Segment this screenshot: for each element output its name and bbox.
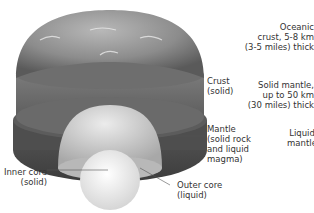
inner-core (80, 150, 140, 210)
mantle-label: Mantle (solid rock and liquid magma) (207, 124, 251, 164)
inner-core-label: Inner core (solid) (0, 167, 47, 187)
liquid-mantle-label: Liquid mantle (282, 128, 314, 148)
outer-core-label: Outer core (liquid) (177, 180, 222, 200)
oceanic-crust-label: Oceanic crust, 5-8 km (3-5 miles) thick (230, 22, 314, 52)
earth-layers-diagram: Crust (solid) Mantle (solid rock and liq… (0, 0, 314, 213)
solid-mantle-label: Solid mantle, up to 50 km (30 miles) thi… (240, 80, 314, 110)
crust-label: Crust (solid) (207, 76, 233, 96)
